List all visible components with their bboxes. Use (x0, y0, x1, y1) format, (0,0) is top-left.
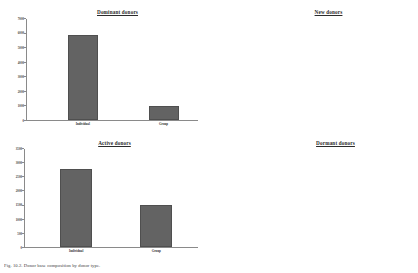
y-tick-label: 3000 (18, 76, 24, 79)
y-tick-label: 5000 (18, 47, 24, 50)
y-tick-label: 3000 (16, 162, 22, 165)
y-tick-label: 3500 (16, 147, 22, 150)
y-tick-label: 2000 (18, 90, 24, 93)
x-axis-label: Individual (69, 250, 83, 253)
chart-panel-active-donors: Active donors 05001000150020002500300035… (0, 137, 209, 258)
plot-area-dominant-donors: 01000200030004000500060007000 Individual… (26, 19, 198, 121)
chart-title: Dominant donors (0, 9, 209, 15)
bar (149, 106, 179, 120)
y-tick-mark (22, 247, 24, 248)
chart-grid: Dominant donors 010002000300040005000600… (0, 0, 418, 258)
y-tick-label: 7000 (18, 17, 24, 20)
figure-page: Dominant donors 010002000300040005000600… (0, 0, 418, 273)
y-tick-label: 6000 (18, 32, 24, 35)
bar-group: IndividualGroup (26, 19, 198, 120)
chart-panel-new-donors: New donors 02000400060008000100001200014… (209, 0, 418, 137)
x-axis-label: Individual (76, 123, 90, 126)
x-axis (24, 247, 198, 248)
x-axis (26, 120, 198, 121)
bar-group: IndividualGroup (24, 149, 198, 247)
chart-title: New donors (209, 9, 418, 15)
y-tick-mark (24, 120, 26, 121)
y-tick-label: 2500 (16, 176, 22, 179)
bar (60, 169, 92, 247)
y-tick-label: 2000 (16, 190, 22, 193)
y-tick-label: 4000 (18, 61, 24, 64)
bar (68, 35, 98, 120)
y-tick-label: 500 (17, 232, 22, 235)
y-tick-label: 1500 (16, 204, 22, 207)
chart-panel-dormant-donors: Dormant donors 1000110012001300140015001… (209, 137, 418, 258)
chart-title: Dormant donors (209, 140, 418, 146)
y-tick-label: 1000 (16, 218, 22, 221)
chart-title: Active donors (0, 140, 209, 146)
y-tick-label: 1000 (18, 105, 24, 108)
plot-area-active-donors: 0500100015002000250030003500 IndividualG… (24, 149, 198, 248)
figure-caption: Fig. 10.2. Donor base composition by don… (4, 263, 304, 272)
x-axis-label: Group (159, 123, 168, 126)
chart-panel-dominant-donors: Dominant donors 010002000300040005000600… (0, 0, 209, 137)
x-axis-label: Group (152, 250, 161, 253)
bar (140, 205, 172, 247)
